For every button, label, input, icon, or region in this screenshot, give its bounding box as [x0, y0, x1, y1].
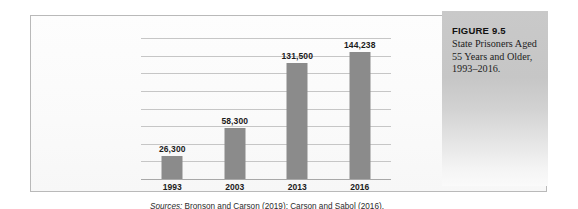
- plot-area: 26,30058,300131,500144,238: [141, 38, 391, 179]
- bar: [224, 128, 245, 179]
- bar-slot: 58,300: [204, 38, 267, 179]
- x-axis-tick-label: 1993: [163, 182, 182, 192]
- bar: [349, 52, 370, 179]
- figure-number-label: FIGURE 9.5: [452, 25, 542, 36]
- bar-slot: 26,300: [141, 38, 204, 179]
- caption-panel: FIGURE 9.5 State Prisoners Aged 55 Years…: [442, 11, 548, 186]
- x-axis-tick-label: 2013: [288, 182, 307, 192]
- source-note: Sources: Bronson and Carson (2019); Cars…: [62, 202, 472, 209]
- x-axis-tick-label: 2016: [350, 182, 369, 192]
- bar-slot: 144,238: [329, 38, 392, 179]
- bar: [162, 156, 183, 179]
- axis-baseline: [141, 179, 391, 180]
- bar-value-label: 58,300: [221, 116, 248, 126]
- x-axis-tick-label: 2003: [225, 182, 244, 192]
- figure-caption-text: State Prisoners Aged 55 Years and Older,…: [452, 38, 542, 76]
- bar: [287, 63, 308, 179]
- bar-series: 26,30058,300131,500144,238: [141, 38, 391, 179]
- bar-slot: 131,500: [266, 38, 329, 179]
- bar-value-label: 26,300: [159, 144, 186, 154]
- bar-value-label: 144,238: [344, 40, 375, 50]
- source-note-lead: Sources:: [150, 202, 182, 209]
- source-note-text: Bronson and Carson (2019); Carson and Sa…: [182, 202, 384, 209]
- bar-chart: 26,30058,300131,500144,238 1993200320132…: [62, 32, 472, 207]
- caption-inner: FIGURE 9.5 State Prisoners Aged 55 Years…: [452, 25, 542, 76]
- bar-value-label: 131,500: [282, 51, 313, 61]
